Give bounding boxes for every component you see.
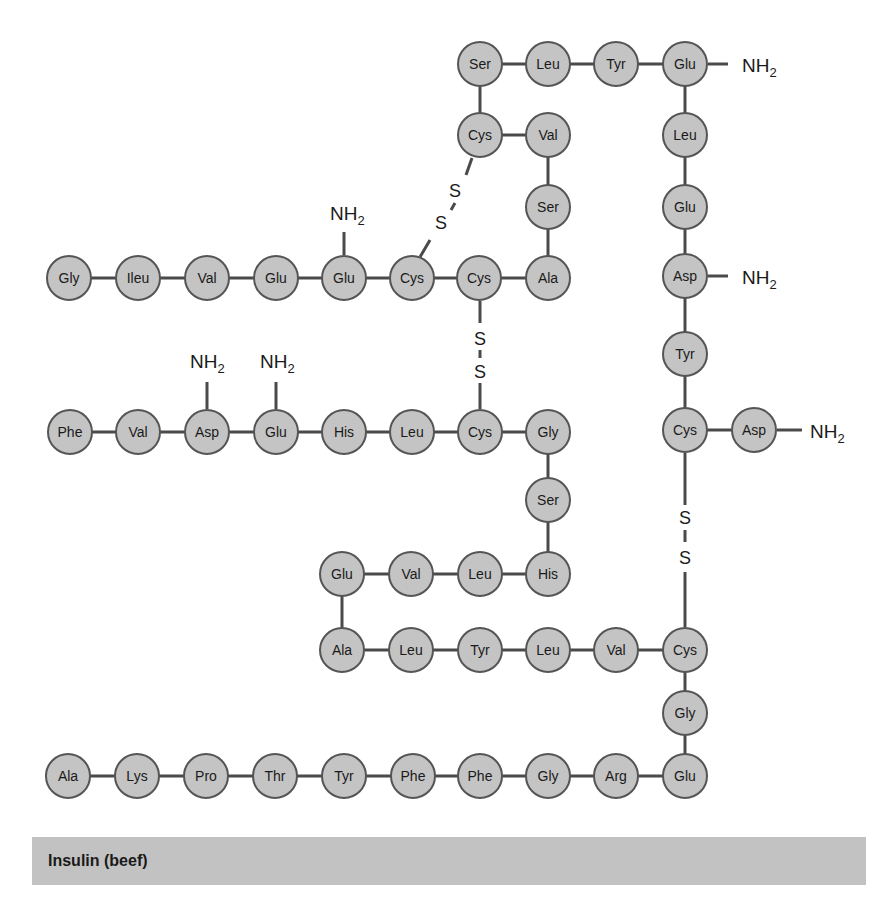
sulfur-label: S: [435, 213, 447, 233]
residue-cys: Cys: [390, 256, 434, 300]
sulfur-label: S: [449, 181, 461, 201]
residue-label: His: [334, 424, 354, 440]
amide-group: NH2: [190, 351, 225, 409]
residue-label: Glu: [265, 270, 287, 286]
residue-ala: Ala: [46, 754, 90, 798]
residue-label: Leu: [673, 127, 696, 143]
residue-glu: Glu: [663, 42, 707, 86]
residue-val: Val: [185, 256, 229, 300]
residue-label: Cys: [673, 642, 697, 658]
caption-bar: Insulin (beef): [32, 837, 866, 885]
residue-label: Leu: [468, 566, 491, 582]
residue-cys: Cys: [663, 408, 707, 452]
amide-label: NH2: [330, 203, 365, 228]
sulfur-label: S: [474, 362, 486, 382]
residue-leu: Leu: [663, 113, 707, 157]
residue-leu: Leu: [389, 628, 433, 672]
residue-label: Tyr: [470, 642, 490, 658]
residue-label: Ser: [537, 492, 559, 508]
residue-asp: Asp: [185, 410, 229, 454]
amide-group: NH2: [330, 203, 365, 255]
residue-label: Glu: [265, 424, 287, 440]
residue-label: Cys: [468, 424, 492, 440]
residue-label: Glu: [674, 768, 696, 784]
residue-label: Thr: [265, 768, 286, 784]
residue-label: Gly: [538, 768, 559, 784]
residue-label: Val: [197, 270, 216, 286]
residue-asp: Asp: [732, 408, 776, 452]
amide-label: NH2: [742, 267, 777, 292]
residue-label: Leu: [399, 642, 422, 658]
residue-label: Tyr: [675, 346, 695, 362]
residue-label: Asp: [742, 422, 766, 438]
residue-label: Phe: [401, 768, 426, 784]
residue-glu: Glu: [663, 754, 707, 798]
residue-label: Ser: [469, 56, 491, 72]
residue-gly: Gly: [526, 410, 570, 454]
residue-leu: Leu: [458, 552, 502, 596]
residue-label: Asp: [195, 424, 219, 440]
sulfur-label: S: [679, 508, 691, 528]
residue-leu: Leu: [526, 42, 570, 86]
amide-label: NH2: [190, 351, 225, 376]
residue-glu: Glu: [663, 185, 707, 229]
residue-thr: Thr: [253, 754, 297, 798]
residue-cys: Cys: [458, 113, 502, 157]
residue-label: Arg: [605, 768, 627, 784]
amide-group: NH2: [708, 55, 777, 80]
residue-label: Ala: [58, 768, 78, 784]
residue-label: Phe: [468, 768, 493, 784]
residue-val: Val: [594, 628, 638, 672]
residue-gly: Gly: [526, 754, 570, 798]
residue-his: His: [322, 410, 366, 454]
residue-leu: Leu: [390, 410, 434, 454]
residue-label: Ileu: [127, 270, 150, 286]
residue-label: Val: [128, 424, 147, 440]
residue-label: Cys: [468, 127, 492, 143]
residue-val: Val: [526, 113, 570, 157]
disulfide-bridge: SS: [679, 453, 691, 627]
residue-ala: Ala: [320, 628, 364, 672]
residue-his: His: [526, 552, 570, 596]
residue-label: Cys: [673, 422, 697, 438]
residue-gly: Gly: [663, 691, 707, 735]
diagram-title: Insulin (beef): [48, 852, 148, 870]
amide-label: NH2: [260, 351, 295, 376]
residue-tyr: Tyr: [322, 754, 366, 798]
residue-label: Ser: [537, 199, 559, 215]
residue-glu: Glu: [322, 256, 366, 300]
residue-val: Val: [389, 552, 433, 596]
sulfur-label: S: [474, 329, 486, 349]
residue-cys: Cys: [663, 628, 707, 672]
residue-arg: Arg: [594, 754, 638, 798]
residue-label: Asp: [673, 268, 697, 284]
residue-lys: Lys: [115, 754, 159, 798]
amide-group: NH2: [777, 421, 845, 446]
residue-label: Glu: [331, 566, 353, 582]
residue-label: Val: [538, 127, 557, 143]
amide-label: NH2: [742, 55, 777, 80]
sulfur-label: S: [679, 548, 691, 568]
residue-label: Leu: [536, 642, 559, 658]
residue-label: Ala: [332, 642, 352, 658]
residue-leu: Leu: [526, 628, 570, 672]
amide-group: NH2: [708, 267, 777, 292]
disulfide-bridge: SS: [420, 158, 472, 257]
residue-phe: Phe: [48, 410, 92, 454]
residue-label: Val: [401, 566, 420, 582]
residue-tyr: Tyr: [663, 332, 707, 376]
residue-label: Leu: [536, 56, 559, 72]
residue-label: Ala: [538, 270, 558, 286]
residue-label: Tyr: [334, 768, 354, 784]
amide-groups: NH2NH2NH2NH2NH2NH2: [190, 55, 845, 446]
amide-group: NH2: [260, 351, 295, 409]
residue-label: Pro: [195, 768, 217, 784]
residue-phe: Phe: [458, 754, 502, 798]
residue-label: Gly: [675, 705, 696, 721]
residue-label: Cys: [400, 270, 424, 286]
disulfide-bridge: SS: [474, 301, 486, 409]
residue-phe: Phe: [391, 754, 435, 798]
residue-glu: Glu: [254, 410, 298, 454]
residue-tyr: Tyr: [594, 42, 638, 86]
residue-cys: Cys: [458, 410, 502, 454]
